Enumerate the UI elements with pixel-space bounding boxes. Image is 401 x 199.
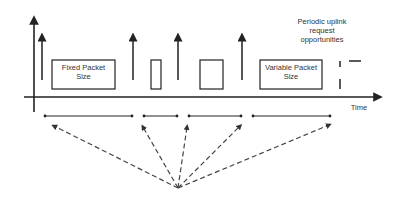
annotation-line1: Periodic uplink [282,17,362,26]
dashed-pointer-1 [54,126,178,188]
dashed-pointer-5 [178,125,329,188]
fixed-packet-label-line2: Size [52,72,115,81]
fixed-packet-label-line1: Fixed Packet [52,63,115,72]
annotation-line2: request [282,26,362,35]
annotation-line3: opportunities [282,35,362,44]
variable-packet-label-line2: Size [260,72,322,81]
periodic-uplink-annotation: Periodic uplink request opportunities [282,17,362,44]
medium-packet-box [200,60,223,89]
time-axis-label: Time [346,103,372,112]
variable-packet-label-line1: Variable Packet [260,63,322,72]
fixed-packet-label: Fixed Packet Size [52,63,115,81]
variable-packet-label: Variable Packet Size [260,63,322,81]
small-packet-box [151,60,161,89]
dashed-pointer-3 [178,127,187,188]
dashed-pointer-4 [178,126,240,188]
